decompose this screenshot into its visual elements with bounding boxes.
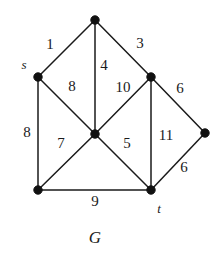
graph-vertex bbox=[147, 186, 155, 194]
edge-weight-label: 8 bbox=[23, 125, 31, 140]
edge-weight-label: 10 bbox=[116, 80, 131, 95]
edge-weight-label: 8 bbox=[68, 79, 76, 94]
edge-weight-label: 4 bbox=[100, 58, 108, 73]
graph-vertex bbox=[147, 73, 155, 81]
edge-weight-label: 6 bbox=[176, 81, 184, 96]
edge-weight-label: 9 bbox=[91, 194, 99, 209]
graph-edge bbox=[38, 134, 95, 190]
edge-weight-label: 11 bbox=[159, 128, 173, 143]
graph-figure: 13481068751169 st G bbox=[0, 0, 212, 259]
graph-vertex bbox=[91, 130, 99, 138]
graph-vertex bbox=[91, 16, 99, 24]
edge-weight-label: 1 bbox=[46, 37, 54, 52]
edge-weight-label: 7 bbox=[57, 136, 65, 151]
edge-weight-label: 6 bbox=[180, 160, 188, 175]
graph-edge bbox=[38, 77, 95, 134]
vertex-label-s: s bbox=[21, 58, 26, 71]
edge-weight-label: 3 bbox=[136, 36, 144, 51]
graph-vertex bbox=[34, 186, 42, 194]
graph-vertex bbox=[201, 129, 209, 137]
edge-weight-label: 5 bbox=[123, 136, 131, 151]
figure-caption: G bbox=[89, 229, 101, 246]
vertex-label-t: t bbox=[157, 202, 161, 215]
graph-vertex bbox=[34, 73, 42, 81]
graph-canvas bbox=[0, 0, 212, 259]
